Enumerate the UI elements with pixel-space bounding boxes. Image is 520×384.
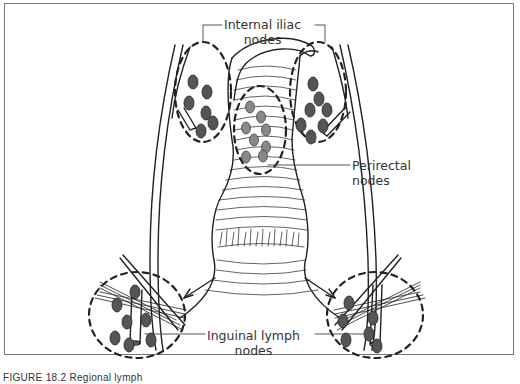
anatomy-diagram (0, 0, 520, 384)
label-inguinal-line2: nodes (207, 343, 300, 358)
leader-lines (145, 25, 375, 334)
label-inguinal: Inguinal lymph nodes (207, 328, 300, 358)
label-internal-iliac: Internal iliac nodes (224, 17, 301, 47)
anal-columns (218, 228, 304, 247)
label-perirectal-line2: nodes (352, 173, 411, 188)
label-perirectal: Perirectal nodes (352, 158, 411, 188)
label-inguinal-line1: Inguinal lymph (207, 328, 300, 343)
label-internal-iliac-line1: Internal iliac (224, 17, 301, 32)
figure-caption: FIGURE 18.2 Regional lymph (3, 372, 143, 383)
perirectal-nodes (242, 101, 271, 163)
label-internal-iliac-line2: nodes (224, 32, 301, 47)
label-perirectal-line1: Perirectal (352, 158, 411, 173)
